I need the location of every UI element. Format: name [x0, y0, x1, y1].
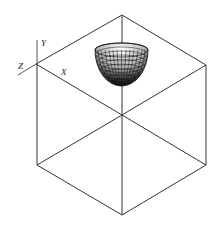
x-axis-label: X [60, 67, 67, 77]
diagram-canvas: Y Z X [0, 0, 216, 234]
cube-edge-bottom-left [37, 165, 122, 215]
z-axis-label: Z [18, 61, 24, 71]
cube-edge-bottom-right [122, 165, 206, 215]
y-axis-label: Y [41, 38, 47, 48]
cube-edge-bottom-left-up [37, 115, 122, 165]
hemisphere [95, 43, 148, 86]
hemisphere-mesh [96, 47, 148, 86]
cube-edge-bottom-right-up [122, 115, 206, 165]
